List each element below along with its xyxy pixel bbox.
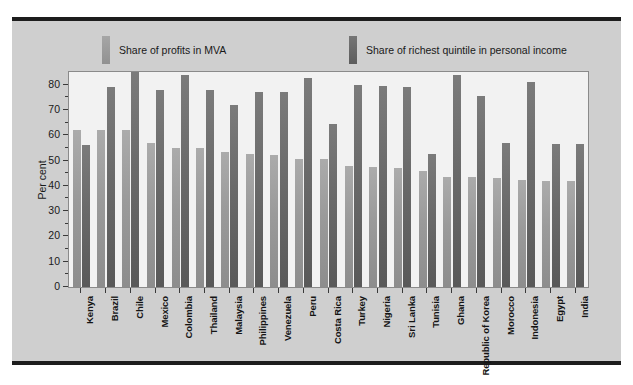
- x-category-label: Colombia: [183, 296, 194, 338]
- bar: [107, 87, 115, 287]
- y-tick-major: [63, 286, 68, 287]
- bar: [345, 166, 353, 287]
- bar: [419, 171, 427, 287]
- bar: [542, 181, 550, 287]
- y-tick-label: 40: [38, 179, 60, 191]
- x-tick: [155, 288, 156, 293]
- x-category-label: Sri Lanka: [406, 296, 417, 338]
- bar: [329, 124, 337, 287]
- bar: [280, 92, 288, 287]
- bar: [221, 152, 229, 287]
- x-tick: [501, 288, 502, 293]
- x-category-label: Malaysia: [233, 296, 244, 335]
- x-tick: [451, 288, 452, 293]
- legend-entry-richest-quintile: Share of richest quintile in personal in…: [349, 35, 567, 65]
- bar: [206, 90, 214, 287]
- y-tick-label: 80: [38, 78, 60, 90]
- y-tick-major: [63, 235, 68, 236]
- bar: [73, 130, 81, 287]
- x-tick: [550, 288, 551, 293]
- y-tick-minor: [65, 122, 68, 123]
- bar: [552, 144, 560, 287]
- x-tick: [80, 288, 81, 293]
- x-category-label: Republic of Korea: [480, 296, 491, 376]
- x-tick: [575, 288, 576, 293]
- x-category-label: Mexico: [159, 296, 170, 328]
- bar: [181, 75, 189, 287]
- bar: [354, 85, 362, 287]
- legend-swatch-icon-dark: [349, 36, 357, 64]
- x-category-label: Costa Rica: [332, 296, 343, 344]
- x-category-label: Morocco: [505, 296, 516, 335]
- y-tick-major: [63, 160, 68, 161]
- chart-legend: Share of profits in MVA Share of richest…: [12, 35, 621, 69]
- bar: [477, 96, 485, 287]
- x-category-label: Philippines: [257, 296, 268, 346]
- bar: [567, 181, 575, 287]
- y-tick-minor: [65, 223, 68, 224]
- bar: [527, 82, 535, 287]
- x-category-label: Indonesia: [529, 296, 540, 339]
- bar: [230, 105, 238, 287]
- bar: [97, 130, 105, 287]
- bar: [403, 87, 411, 287]
- bar: [428, 154, 436, 287]
- y-tick-major: [63, 109, 68, 110]
- bar: [576, 144, 584, 287]
- bar: [246, 154, 254, 287]
- x-tick: [253, 288, 254, 293]
- bar: [255, 92, 263, 287]
- bar: [320, 159, 328, 287]
- x-tick: [402, 288, 403, 293]
- bar: [196, 148, 204, 287]
- x-tick: [229, 288, 230, 293]
- x-category-label: Kenya: [84, 296, 95, 324]
- bar: [295, 159, 303, 287]
- y-tick-major: [63, 84, 68, 85]
- bar: [502, 143, 510, 287]
- x-tick: [328, 288, 329, 293]
- x-category-label: Thailand: [208, 296, 219, 334]
- chart-panel: Share of profits in MVA Share of richest…: [12, 17, 621, 365]
- y-tick-label: 30: [38, 204, 60, 216]
- x-category-label: Turkey: [356, 296, 367, 326]
- legend-swatch-icon-light: [102, 36, 110, 64]
- y-tick-major: [63, 210, 68, 211]
- y-tick-label: 50: [38, 154, 60, 166]
- bar: [304, 78, 312, 287]
- x-category-label: Chile: [134, 296, 145, 319]
- bar: [379, 86, 387, 287]
- bar: [453, 75, 461, 287]
- x-category-label: Egypt: [554, 296, 565, 322]
- legend-entry-profits: Share of profits in MVA: [102, 35, 226, 65]
- chart-figure: Share of profits in MVA Share of richest…: [0, 0, 633, 385]
- y-tick-minor: [65, 96, 68, 97]
- bar: [369, 167, 377, 287]
- x-tick: [204, 288, 205, 293]
- x-tick: [426, 288, 427, 293]
- x-category-label: Venezuela: [282, 296, 293, 341]
- bar: [468, 177, 476, 287]
- y-tick-minor: [65, 197, 68, 198]
- x-tick: [130, 288, 131, 293]
- y-tick-label: 10: [38, 255, 60, 267]
- x-tick: [179, 288, 180, 293]
- x-tick: [476, 288, 477, 293]
- y-tick-major: [63, 185, 68, 186]
- bar: [82, 145, 90, 287]
- y-tick-minor: [65, 147, 68, 148]
- x-category-label: Peru: [307, 296, 318, 317]
- y-tick-minor: [65, 172, 68, 173]
- x-tick: [278, 288, 279, 293]
- y-tick-major: [63, 134, 68, 135]
- legend-label-profits: Share of profits in MVA: [119, 45, 226, 56]
- bar: [518, 180, 526, 288]
- bar: [122, 130, 130, 287]
- plot-wrapper: Per cent 01020304050607080KenyaBrazilChi…: [68, 71, 589, 288]
- bar: [156, 90, 164, 287]
- x-tick: [377, 288, 378, 293]
- y-tick-label: 70: [38, 103, 60, 115]
- plot-area: [68, 71, 589, 288]
- y-tick-minor: [65, 248, 68, 249]
- x-category-label: India: [579, 296, 590, 318]
